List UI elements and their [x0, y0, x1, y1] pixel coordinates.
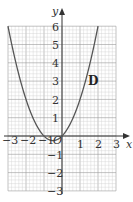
x-tick-label: 1 [77, 138, 84, 151]
y-tick-label: 6 [52, 21, 59, 34]
y-tick-label: −1 [47, 149, 63, 162]
graph: x y −3 −2 −1 O 1 2 3 6 5 4 3 2 1 −1 −2 −… [0, 0, 133, 202]
y-tick-label: 3 [52, 75, 59, 88]
x-tick-label: 3 [113, 138, 120, 151]
y-tick-label: −2 [47, 167, 63, 180]
curve-label-d: D [88, 74, 98, 88]
x-tick-label: −3 [2, 134, 18, 147]
y-tick-label: 4 [52, 57, 59, 70]
y-tick-label: 5 [52, 39, 59, 52]
x-tick-label: −1 [38, 134, 54, 147]
y-tick-label: 2 [52, 94, 59, 107]
y-tick-label: −3 [47, 185, 63, 198]
x-tick-label: 2 [95, 138, 102, 151]
origin-label: O [53, 134, 62, 147]
y-axis-arrow-icon [59, 8, 65, 15]
y-tick-label: 1 [52, 112, 59, 125]
x-axis-label: x [126, 138, 133, 151]
x-tick-label: −2 [20, 134, 36, 147]
y-axis-label: y [51, 5, 59, 18]
